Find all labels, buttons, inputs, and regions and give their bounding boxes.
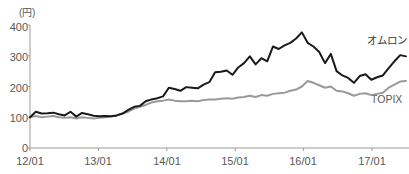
series-line-omron (30, 32, 406, 117)
stock-price-chart: (円) 400 300 200 100 0 12/01 13/01 14/01 … (0, 0, 409, 174)
axis-lines (30, 25, 409, 148)
chart-plot-area (0, 0, 409, 174)
